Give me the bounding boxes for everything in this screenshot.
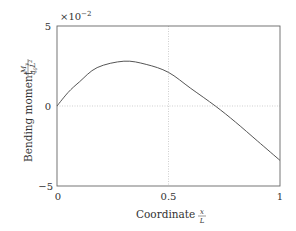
y-exponent: ×10−2 xyxy=(60,10,91,22)
y-tick-neg5: −5 xyxy=(38,181,53,192)
svg-text:Coordinate: Coordinate xyxy=(136,208,195,220)
x-axis-label: Coordinate x L xyxy=(136,208,206,225)
svg-text:Bending moment: Bending moment xyxy=(22,70,34,162)
chart: 5 0 −5 ×10−2 0 0.5 1 Coordinate x L Bend… xyxy=(0,0,296,231)
y-tick-5: 5 xyxy=(45,21,51,32)
svg-text:q0L2: q0L2 xyxy=(27,59,38,75)
y-axis-label: Bending moment My q0L2 xyxy=(20,59,38,162)
x-tick-0: 0 xyxy=(55,191,61,202)
y-tick-0: 0 xyxy=(45,101,51,112)
svg-text:L: L xyxy=(199,217,205,225)
x-tick-0.5: 0.5 xyxy=(161,191,177,202)
x-tick-1: 1 xyxy=(277,191,283,202)
svg-text:x: x xyxy=(200,208,204,216)
